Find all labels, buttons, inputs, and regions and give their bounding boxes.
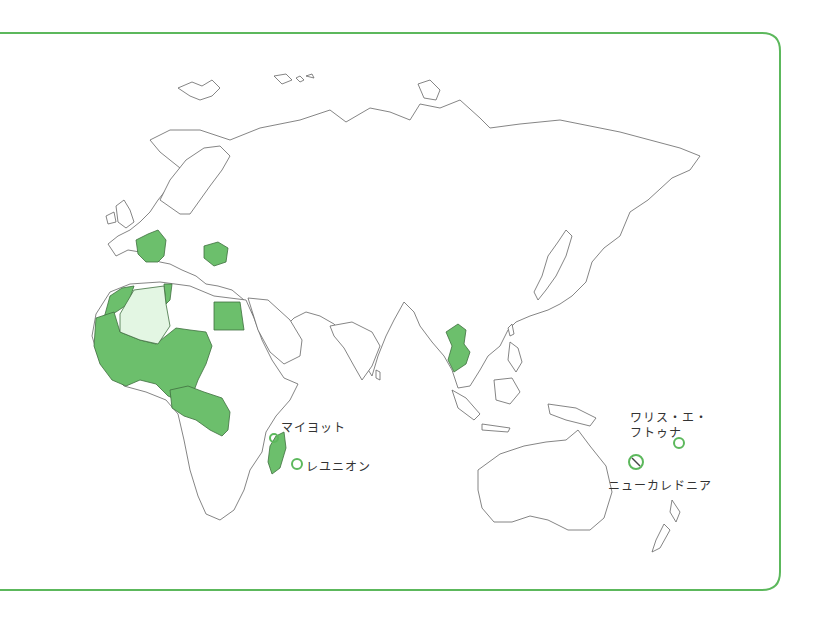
new-caledonia-island bbox=[632, 458, 640, 466]
land-philippines bbox=[508, 342, 522, 372]
label-wallis-futuna-2: フトゥナ bbox=[630, 423, 682, 440]
land-new-guinea bbox=[548, 404, 596, 426]
land-borneo bbox=[494, 378, 520, 404]
region-egypt bbox=[214, 302, 244, 330]
land-uk bbox=[116, 200, 134, 228]
land-sumatra bbox=[452, 390, 480, 420]
land-australia bbox=[478, 430, 612, 530]
land-new-zealand bbox=[652, 500, 680, 552]
label-new-caledonia: ニューカレドニア bbox=[608, 476, 712, 493]
label-mayotte: マイヨット bbox=[281, 418, 346, 435]
land-svalbard bbox=[178, 80, 220, 100]
land-java bbox=[482, 424, 510, 432]
land-franz-josef bbox=[274, 74, 314, 84]
marker-reunion bbox=[292, 459, 302, 469]
land-sri-lanka bbox=[376, 370, 380, 380]
land-novaya-zemlya bbox=[418, 80, 440, 100]
map-canvas bbox=[0, 0, 823, 620]
land-ireland bbox=[106, 212, 116, 224]
label-reunion: レユニオン bbox=[306, 457, 371, 474]
